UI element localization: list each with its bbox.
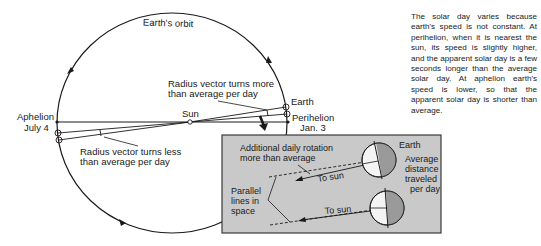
caption-text: The solar day varies because earth's spe… xyxy=(411,12,537,116)
earth-label: Earth xyxy=(291,96,314,107)
leader-line xyxy=(104,137,138,146)
avg-distance-label-4: per day xyxy=(410,184,441,194)
avg-distance-label-3: traveled xyxy=(405,174,437,184)
avg-distance-label-2: distance xyxy=(405,164,439,174)
leader-line xyxy=(218,101,267,110)
inset-earth-label: Earth xyxy=(399,140,421,150)
additional-rotation-label-2: more than average xyxy=(240,153,316,163)
aphelion-date: July 4 xyxy=(24,122,49,133)
orbit-arrow-icon xyxy=(119,219,126,226)
orbit-label: Earth's orbit xyxy=(143,16,194,29)
pointer-arrow-icon xyxy=(259,116,268,131)
parallel-lines-label-3: space xyxy=(231,206,255,216)
additional-rotation-label: Additional daily rotation xyxy=(240,143,333,153)
radius-more-label-2: than average per day xyxy=(168,88,258,99)
aphelion-label: Aphelion xyxy=(17,111,54,122)
avg-distance-label: Average xyxy=(405,154,438,164)
inset-box: Additional daily rotation more than aver… xyxy=(222,135,441,233)
perihelion-date: Jan. 3 xyxy=(300,122,326,133)
parallel-lines-label-2: lines in xyxy=(231,196,259,206)
sun-label: Sun xyxy=(182,108,199,119)
orbit-arrow-icon xyxy=(266,56,272,63)
sun-icon xyxy=(188,120,192,124)
radius-less-label-2: than average per day xyxy=(80,156,170,167)
parallel-lines-label: Parallel xyxy=(231,186,261,196)
